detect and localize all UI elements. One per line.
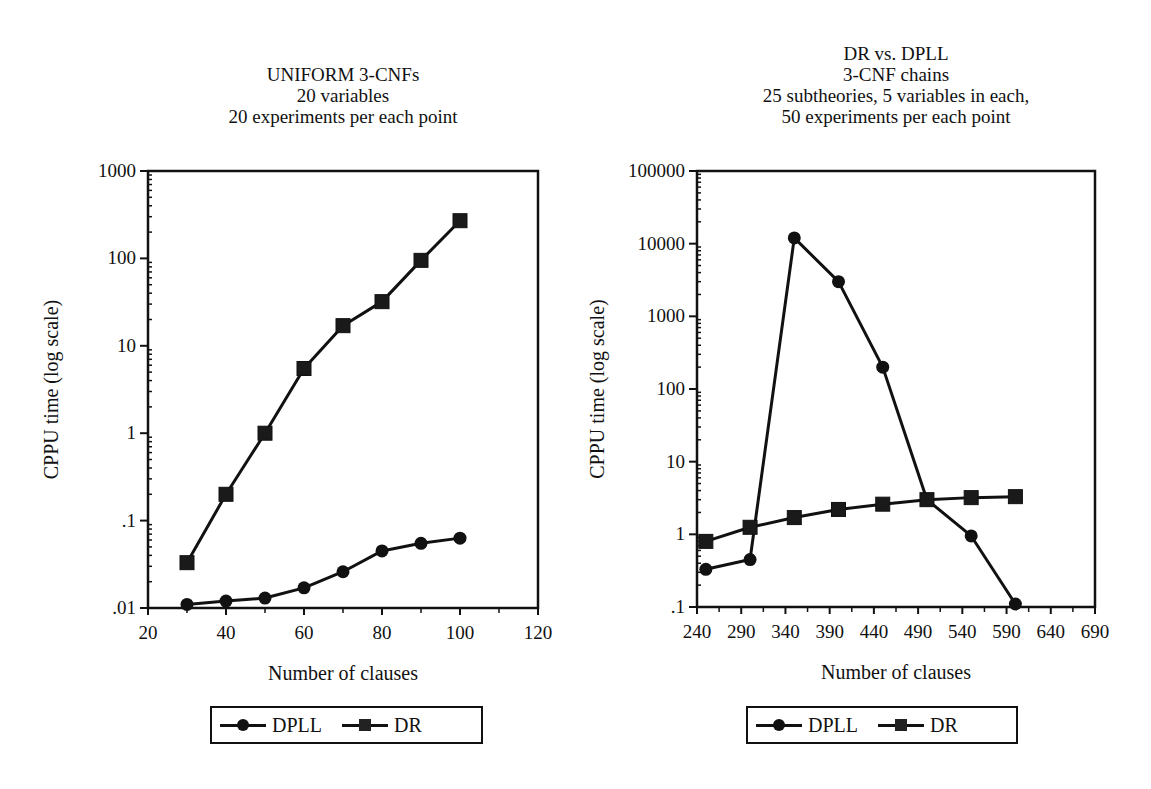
chart-1-legend: DPLL DR: [210, 706, 483, 744]
circle-marker-icon: [220, 595, 233, 608]
circle-marker-icon: [788, 231, 801, 244]
legend-label: DR: [930, 714, 958, 737]
y-axis-title: CPPU time (log scale): [40, 300, 63, 479]
square-marker-icon: [375, 295, 389, 309]
x-tick-label: 80: [373, 622, 392, 643]
circle-marker-icon: [832, 275, 845, 288]
square-marker-icon: [258, 426, 272, 440]
circle-marker-icon: [454, 532, 467, 545]
circle-marker-icon: [259, 592, 272, 605]
square-marker-icon: [743, 520, 757, 534]
circle-marker-icon: [1009, 597, 1022, 610]
square-marker-icon: [342, 724, 388, 727]
y-tick-label: 1: [676, 523, 686, 544]
legend-item-dr: DR: [878, 714, 958, 737]
circle-marker-icon: [965, 529, 978, 542]
square-marker-icon: [219, 487, 233, 501]
x-axis-title: Number of clauses: [821, 661, 971, 683]
x-tick-label: 490: [904, 621, 933, 642]
x-tick-label: 390: [815, 621, 844, 642]
x-tick-label: 40: [217, 622, 236, 643]
circle-marker-icon: [337, 565, 350, 578]
y-tick-label: 100: [657, 378, 686, 399]
legend-item-dr: DR: [342, 714, 422, 737]
x-tick-label: 100: [446, 622, 475, 643]
circle-marker-icon: [415, 537, 428, 550]
y-tick-label: 100000: [628, 160, 685, 181]
square-marker-icon: [336, 319, 350, 333]
square-marker-icon: [876, 497, 890, 511]
circle-marker-icon: [181, 598, 194, 611]
x-tick-label: 540: [948, 621, 977, 642]
x-tick-label: 590: [992, 621, 1021, 642]
circle-marker-icon: [756, 724, 802, 727]
y-tick-label: 1000: [647, 305, 685, 326]
y-tick-label: 1: [127, 422, 137, 443]
square-marker-icon: [414, 253, 428, 267]
chart-2: .111010010001000010000024029034039044049…: [586, 160, 1109, 683]
x-tick-label: 240: [683, 621, 712, 642]
y-axis-title: CPPU time (log scale): [586, 299, 609, 478]
y-tick-label: .1: [671, 596, 685, 617]
x-axis-title: Number of clauses: [268, 662, 418, 684]
circle-marker-icon: [699, 563, 712, 576]
circle-marker-icon: [298, 581, 311, 594]
square-marker-icon: [180, 556, 194, 570]
x-tick-label: 690: [1081, 621, 1110, 642]
legend-label: DR: [394, 714, 422, 737]
y-tick-label: 10: [117, 335, 136, 356]
y-tick-label: 100: [108, 247, 137, 268]
x-tick-label: 440: [860, 621, 889, 642]
series-dr: [180, 214, 467, 570]
circle-marker-icon: [376, 544, 389, 557]
y-tick-label: 10000: [638, 233, 686, 254]
square-marker-icon: [699, 534, 713, 548]
x-tick-label: 640: [1037, 621, 1066, 642]
x-tick-label: 60: [295, 622, 314, 643]
plot-frame: [148, 171, 538, 608]
legend-label: DPLL: [808, 714, 858, 737]
square-marker-icon: [832, 502, 846, 516]
square-marker-icon: [453, 214, 467, 228]
x-tick-label: 290: [727, 621, 756, 642]
plot-frame: [697, 171, 1095, 607]
legend-label: DPLL: [272, 714, 322, 737]
square-marker-icon: [1008, 490, 1022, 504]
y-tick-label: .1: [122, 510, 136, 531]
square-marker-icon: [787, 511, 801, 525]
circle-marker-icon: [744, 553, 757, 566]
series-dpll: [699, 231, 1022, 610]
y-tick-label: 10: [666, 451, 685, 472]
circle-marker-icon: [220, 724, 266, 727]
chart-2-legend: DPLL DR: [746, 706, 1018, 744]
x-tick-label: 340: [771, 621, 800, 642]
series-dpll: [181, 532, 467, 611]
y-tick-label: .01: [112, 597, 136, 618]
square-marker-icon: [297, 361, 311, 375]
plots-canvas: .01.1110100100020406080100120Number of c…: [0, 0, 1151, 789]
square-marker-icon: [878, 724, 924, 727]
legend-item-dpll: DPLL: [220, 714, 322, 737]
circle-marker-icon: [876, 361, 889, 374]
y-tick-label: 1000: [98, 160, 136, 181]
square-marker-icon: [920, 493, 934, 507]
x-tick-label: 120: [524, 622, 553, 643]
chart-1: .01.1110100100020406080100120Number of c…: [40, 160, 552, 684]
legend-item-dpll: DPLL: [756, 714, 858, 737]
square-marker-icon: [964, 491, 978, 505]
x-tick-label: 20: [139, 622, 158, 643]
